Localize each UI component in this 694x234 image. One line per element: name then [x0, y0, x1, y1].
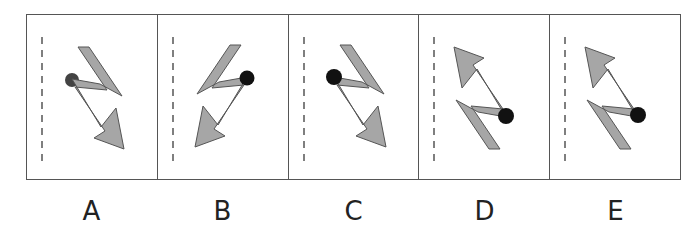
pivot-dot [239, 71, 254, 86]
option-panel-e[interactable] [550, 15, 680, 179]
option-panel-a[interactable] [27, 15, 158, 179]
zigzag-arrow-shape [585, 47, 637, 149]
zigzag-arrow-figure-b [158, 15, 289, 181]
zigzag-arrow-shape [334, 45, 386, 147]
option-label-a: A [26, 196, 157, 226]
zigzag-arrow-figure-a [27, 15, 158, 181]
zigzag-arrow-figure-c [289, 15, 420, 181]
zigzag-arrow-shape [454, 47, 506, 149]
zigzag-arrow-shape [195, 45, 247, 147]
option-panel-d[interactable] [419, 15, 550, 179]
zigzag-arrow-shape [72, 47, 124, 149]
option-label-d: D [419, 196, 550, 226]
option-panel-b[interactable] [158, 15, 289, 179]
pivot-dot [498, 108, 514, 124]
pivot-dot [326, 69, 342, 85]
option-label-e: E [550, 196, 681, 226]
zigzag-arrow-figure-e [550, 15, 681, 181]
option-label-c: C [288, 196, 419, 226]
zigzag-arrow-figure-d [419, 15, 550, 181]
option-panel-c[interactable] [289, 15, 420, 179]
options-strip [26, 14, 681, 180]
option-label-b: B [157, 196, 288, 226]
pivot-dot [630, 107, 646, 123]
